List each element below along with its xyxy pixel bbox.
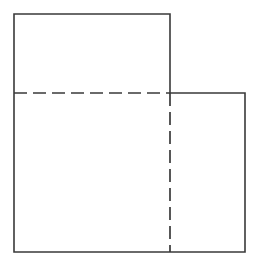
shape-fill-region [14,14,245,252]
geometry-figure-svg [0,0,258,264]
figure-canvas [0,0,258,264]
